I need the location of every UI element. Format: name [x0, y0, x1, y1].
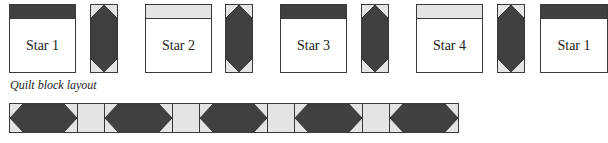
hexagon-piece-2: [105, 104, 172, 132]
block-label: Star 3: [281, 19, 346, 72]
vertical-sashing-4: [497, 4, 525, 73]
horizontal-sashing-strip: [9, 103, 459, 133]
block-header-band-light: [417, 5, 482, 19]
block-label: Star 2: [146, 19, 211, 72]
block-header-band-dark: [541, 5, 607, 19]
quilt-strip-layout: [9, 103, 459, 133]
star-block-1: Star 1: [9, 4, 76, 73]
elongated-hexagon-icon: [497, 4, 525, 73]
star-block-5: Star 1: [540, 4, 608, 73]
hexagon-piece-3: [200, 104, 267, 132]
hexagon-piece-4: [295, 104, 362, 132]
elongated-hexagon-icon: [225, 4, 253, 73]
vertical-sashing-3: [361, 4, 389, 73]
vertical-sashing-1: [90, 4, 118, 73]
star-block-2: Star 2: [145, 4, 212, 73]
block-header-band-light: [146, 5, 211, 19]
block-header-band-dark: [10, 5, 75, 19]
block-label: Star 1: [10, 19, 75, 72]
elongated-hexagon-icon: [361, 4, 389, 73]
star-block-3: Star 3: [280, 4, 347, 73]
vertical-sashing-2: [225, 4, 253, 73]
elongated-hexagon-icon: [90, 4, 118, 73]
block-header-band-dark: [281, 5, 346, 19]
star-block-4: Star 4: [416, 4, 483, 73]
block-label: Star 1: [541, 19, 607, 72]
block-label: Star 4: [417, 19, 482, 72]
hexagon-piece-5: [390, 104, 458, 132]
diagram-caption: Quilt block layout: [10, 78, 97, 93]
hexagon-piece-1: [10, 104, 77, 132]
